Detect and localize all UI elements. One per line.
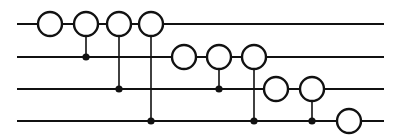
- control-dot: [82, 53, 89, 60]
- gate-circle: [172, 45, 196, 69]
- gate-circle: [300, 77, 324, 101]
- gate-circle: [139, 12, 163, 36]
- gate-circle: [74, 12, 98, 36]
- gate-circle: [242, 45, 266, 69]
- control-dot: [308, 117, 315, 124]
- controls-group: [82, 24, 315, 125]
- wires-group: [17, 24, 384, 121]
- gate-circle: [264, 77, 288, 101]
- gate-circle: [107, 12, 131, 36]
- control-dot: [147, 117, 154, 124]
- control-dot: [215, 85, 222, 92]
- gate-circle: [207, 45, 231, 69]
- control-dot: [250, 117, 257, 124]
- gate-circle: [38, 12, 62, 36]
- control-dot: [115, 85, 122, 92]
- circuit-diagram: [0, 0, 401, 135]
- gate-circle: [337, 109, 361, 133]
